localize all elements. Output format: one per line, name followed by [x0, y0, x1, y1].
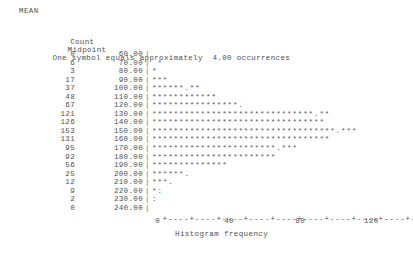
histogram-row: 126140.00|******************************… — [19, 118, 357, 127]
row-bar: ***********************.*** — [152, 144, 298, 153]
histogram-row: 12210.00|***. — [19, 178, 357, 187]
row-midpoint: 70.00 — [75, 59, 143, 68]
histogram-row: 25200.00|******. — [19, 170, 357, 179]
histogram-row: 380.00|* — [19, 67, 357, 76]
row-midpoint: 120.00 — [75, 101, 143, 110]
row-midpoint: 100.00 — [75, 84, 143, 93]
row-count: 9 — [19, 187, 75, 196]
y-axis-line-segment: | — [143, 50, 152, 59]
row-bar: ********************************* — [152, 135, 330, 144]
row-bar: ******************************.** — [152, 110, 330, 119]
row-count: 67 — [19, 101, 75, 110]
row-count: 6 — [19, 59, 75, 68]
row-count: 3 — [19, 67, 75, 76]
row-count: 25 — [19, 170, 75, 179]
row-bar: *** — [152, 76, 168, 85]
row-bar: ******.** — [152, 84, 201, 93]
row-midpoint: 180.00 — [75, 153, 143, 162]
row-midpoint: 160.00 — [75, 135, 143, 144]
histogram-row: 153150.00|******************************… — [19, 127, 357, 136]
row-bar: ******. — [152, 170, 190, 179]
histogram-row: 95170.00|***********************.*** — [19, 144, 357, 153]
row-count: 56 — [19, 161, 75, 170]
page-title: MEAN — [19, 7, 39, 15]
y-axis-line-segment: | — [143, 161, 152, 170]
row-count: 92 — [19, 153, 75, 162]
y-axis-line-segment: | — [143, 101, 152, 110]
y-axis-line-segment: | — [143, 135, 152, 144]
y-axis-line-segment: | — [143, 195, 152, 204]
x-tick-label: 40 — [211, 217, 247, 225]
row-midpoint: 210.00 — [75, 178, 143, 187]
histogram-row: 56190.00|************** — [19, 161, 357, 170]
histogram-row: 37100.00|******.** — [19, 84, 357, 93]
row-midpoint: 130.00 — [75, 110, 143, 119]
row-midpoint: 200.00 — [75, 170, 143, 179]
histogram-row: 670.00| * — [19, 59, 357, 68]
y-axis-line-segment: | — [143, 127, 152, 136]
histogram-row: 1790.00|*** — [19, 76, 357, 85]
row-bar: ***. — [152, 178, 174, 187]
y-axis-line-segment: | — [143, 110, 152, 119]
row-midpoint: 60.00 — [75, 50, 143, 59]
histogram-report: MEAN Count Midpoint One symbol equals ap… — [0, 0, 413, 256]
row-count: 2 — [19, 195, 75, 204]
y-axis-line-segment: | — [143, 84, 152, 93]
row-count: 48 — [19, 93, 75, 102]
column-header-count: Count — [38, 38, 94, 46]
row-count: 121 — [19, 110, 75, 119]
y-axis-line-segment: | — [143, 144, 152, 153]
row-count: 126 — [19, 118, 75, 127]
y-axis-line-segment: | — [143, 178, 152, 187]
x-tick-label: 120 — [354, 217, 390, 225]
row-midpoint: 190.00 — [75, 161, 143, 170]
row-bar: *: — [152, 187, 163, 196]
y-axis-line-segment: | — [143, 153, 152, 162]
histogram-row: 48110.00|************ — [19, 93, 357, 102]
row-bar: **********************************.*** — [152, 127, 357, 136]
row-count: 0 — [19, 50, 75, 59]
y-axis-line-segment: | — [143, 93, 152, 102]
row-count: 131 — [19, 135, 75, 144]
histogram-rows: 060.00|670.00| *380.00|*1790.00|***37100… — [19, 50, 357, 212]
row-midpoint: 90.00 — [75, 76, 143, 85]
row-midpoint: 170.00 — [75, 144, 143, 153]
row-midpoint: 150.00 — [75, 127, 143, 136]
histogram-row: 92180.00|*********************** — [19, 153, 357, 162]
histogram-row: 2230.00|: — [19, 195, 357, 204]
row-bar: ************** — [152, 161, 228, 170]
row-midpoint: 80.00 — [75, 67, 143, 76]
x-tick-label: 0 — [140, 217, 176, 225]
row-midpoint: 110.00 — [75, 93, 143, 102]
row-midpoint: 220.00 — [75, 187, 143, 196]
row-count: 95 — [19, 144, 75, 153]
y-axis-line-segment: | — [143, 67, 152, 76]
y-axis-line-segment: | — [143, 76, 152, 85]
histogram-row: 121130.00|******************************… — [19, 110, 357, 119]
row-midpoint: 230.00 — [75, 195, 143, 204]
row-count: 37 — [19, 84, 75, 93]
y-axis-line-segment: | — [143, 170, 152, 179]
histogram-row: 131160.00|******************************… — [19, 135, 357, 144]
y-axis-line-segment: | — [143, 118, 152, 127]
row-bar: ************ — [152, 93, 217, 102]
row-bar: *********************** — [152, 153, 276, 162]
row-count: 153 — [19, 127, 75, 136]
row-count: 17 — [19, 76, 75, 85]
histogram-row: 67120.00|****************. — [19, 101, 357, 110]
x-axis-tick-labels: 04080120160200 — [19, 217, 413, 225]
y-axis-line-segment: | — [143, 187, 152, 196]
x-axis-label: Histogram frequency — [175, 230, 268, 238]
y-axis-line-segment: | — [143, 59, 152, 68]
histogram-row: 060.00| — [19, 50, 357, 59]
row-bar: : — [152, 195, 157, 204]
row-midpoint: 140.00 — [75, 118, 143, 127]
row-bar: ****************. — [152, 101, 244, 110]
row-bar: * — [152, 59, 163, 68]
x-tick-label: 80 — [282, 217, 318, 225]
histogram-row: 9220.00|*: — [19, 187, 357, 196]
row-count: 12 — [19, 178, 75, 187]
row-bar: * — [152, 67, 157, 76]
row-bar: ******************************** — [152, 118, 325, 127]
